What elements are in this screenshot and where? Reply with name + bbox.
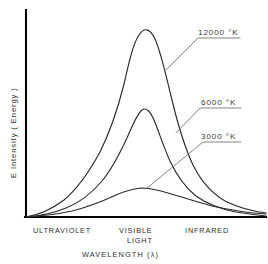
x-tick-label-ultraviolet: ULTRAVIOLET	[33, 226, 91, 235]
series-label-6000k: 6000 °K	[201, 98, 236, 107]
leader-line-6000k	[176, 108, 241, 133]
y-axis-title: E Intensity ( Energy )	[9, 87, 18, 178]
leader-line-12000k	[166, 38, 240, 70]
series-label-12000k: 12000 °K	[198, 28, 239, 37]
chart-canvas: 12000 °K 6000 °K 3000 °K ULTRAVIOLET VIS…	[0, 0, 268, 264]
x-tick-label-visible: VISIBLE	[119, 226, 153, 235]
x-tick-label-infrared: INFRARED	[185, 226, 229, 235]
curve-3000k	[26, 188, 266, 217]
blackbody-spectrum-chart: 12000 °K 6000 °K 3000 °K ULTRAVIOLET VIS…	[0, 0, 268, 264]
x-tick-label-light: LIGHT	[127, 236, 153, 245]
series-label-3000k: 3000 °K	[201, 132, 236, 141]
x-axis-title: WAVELENGTH (λ)	[82, 250, 159, 259]
